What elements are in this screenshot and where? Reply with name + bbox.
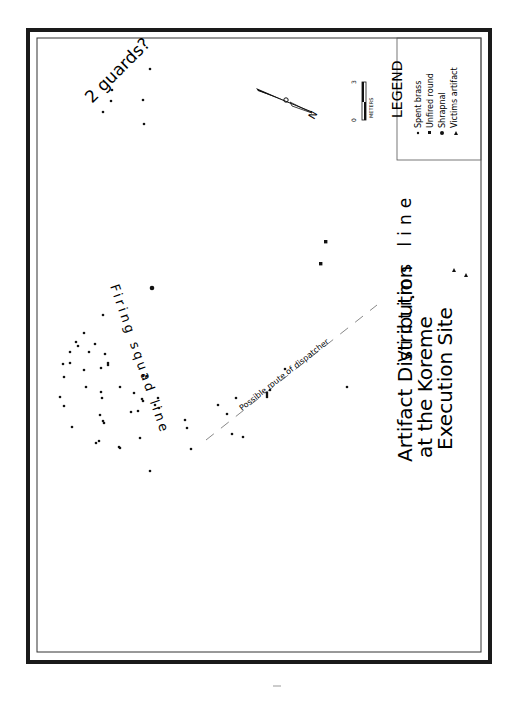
legend-item-shrapnal: Shrapnal [438, 92, 447, 135]
firing-squad-label: Firing squad line [107, 282, 173, 436]
unfired-round-marker [324, 240, 327, 243]
svg-text:Victims artifact: Victims artifact [450, 67, 459, 128]
svg-text:Execution Site: Execution Site [433, 307, 457, 450]
north-arrow-icon: N [256, 88, 319, 121]
scale-start: 0 [350, 118, 357, 122]
dispatcher-artifacts [217, 296, 415, 439]
dispatcher-label: Possible route of dispatcher [238, 337, 332, 413]
victims-artifact-marker [464, 273, 468, 277]
legend: LEGEND Spent brass Unfired round Shrapna… [389, 60, 459, 135]
map-canvas: LEGEND Spent brass Unfired round Shrapna… [0, 0, 519, 712]
spent-brass-icon [417, 132, 419, 134]
unfired-round-icon [428, 131, 431, 134]
victims-artifact-icon [454, 131, 458, 135]
legend-item-spent-brass: Spent brass [414, 81, 423, 135]
map-title: Artifact Distribution at the Koreme Exec… [393, 266, 457, 462]
legend-item-unfired-round: Unfired round [426, 73, 435, 134]
svg-text:Spent brass: Spent brass [414, 81, 423, 128]
map-page: LEGEND Spent brass Unfired round Shrapna… [0, 0, 519, 712]
svg-text:Unfired round: Unfired round [426, 73, 435, 128]
legend-item-victims-artifact: Victims artifact [450, 67, 459, 135]
svg-text:Shrapnal: Shrapnal [438, 92, 447, 128]
scale-unit: METERS [368, 98, 374, 118]
north-label: N [306, 109, 319, 121]
shrapnal-marker [150, 286, 155, 291]
guards-label: 2 guards? [81, 34, 154, 107]
scale-bar: 0 3 METERS [350, 80, 374, 122]
victims-artifact-marker [452, 268, 456, 272]
scale-end: 3 [350, 80, 357, 84]
legend-title: LEGEND [389, 60, 405, 118]
shrapnal-icon [440, 131, 444, 135]
unfired-round-marker [319, 262, 322, 265]
